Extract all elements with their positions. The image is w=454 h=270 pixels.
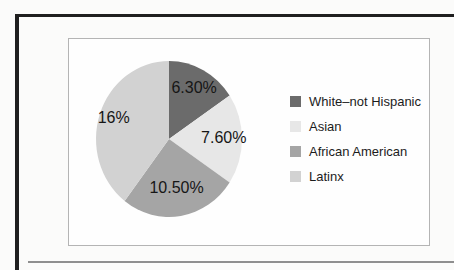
legend-swatch-icon (290, 146, 301, 157)
legend-swatch-icon (290, 171, 301, 182)
pie-slice-label: 6.30% (171, 79, 216, 96)
legend-item: Latinx (290, 164, 421, 189)
legend: White–not HispanicAsianAfrican AmericanL… (290, 89, 421, 189)
frame-top-border (15, 14, 454, 17)
legend-label: Latinx (309, 169, 344, 184)
legend-label: Asian (309, 119, 342, 134)
pie-slice-label: 7.60% (201, 129, 246, 146)
page: { "page": { "frame_color": "#1f1f1f", "r… (0, 0, 454, 270)
legend-label: White–not Hispanic (309, 94, 421, 109)
frame-left-border (15, 14, 19, 270)
pie-slice-label: 10.50% (149, 179, 203, 196)
legend-label: African American (309, 144, 407, 159)
legend-item: African American (290, 139, 421, 164)
legend-swatch-icon (290, 121, 301, 132)
legend-swatch-icon (290, 96, 301, 107)
legend-item: Asian (290, 114, 421, 139)
legend-item: White–not Hispanic (290, 89, 421, 114)
chart-panel: 6.30%7.60%10.50%16% White–not HispanicAs… (68, 38, 430, 246)
pie-slice-label: 16% (98, 109, 130, 126)
bottom-rule (28, 261, 454, 263)
